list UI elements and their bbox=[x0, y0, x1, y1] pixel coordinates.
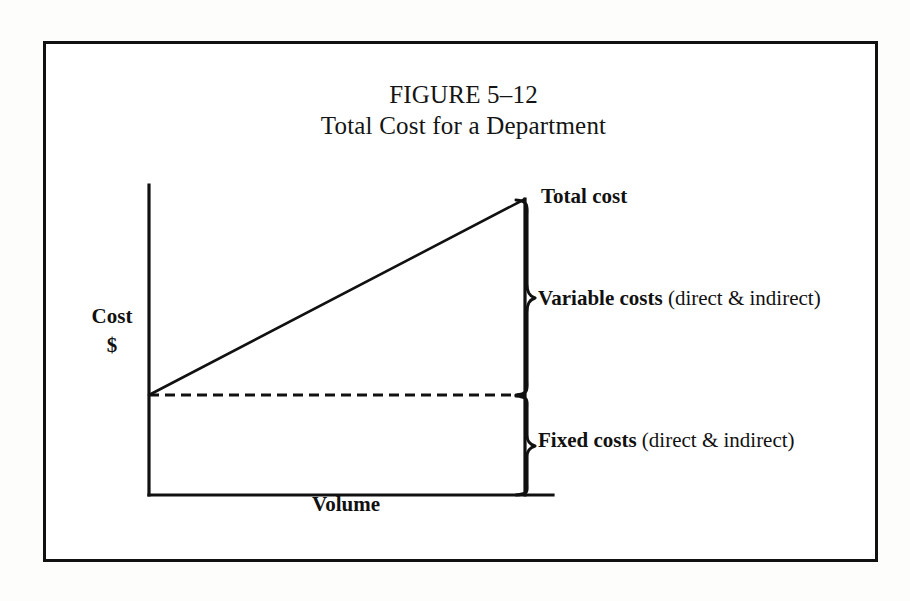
y-axis-label: Cost $ bbox=[76, 302, 148, 360]
fixed-costs-term: Fixed costs bbox=[538, 428, 637, 452]
variable-costs-term: Variable costs bbox=[538, 286, 663, 310]
fixed-costs-annotation: Fixed costs (direct & indirect) bbox=[538, 428, 795, 453]
fixed-costs-qualifier: (direct & indirect) bbox=[642, 428, 795, 452]
variable-costs-qualifier: (direct & indirect) bbox=[668, 286, 821, 310]
variable-costs-annotation: Variable costs (direct & indirect) bbox=[538, 286, 821, 311]
y-axis-unit: $ bbox=[76, 331, 148, 360]
y-axis-label-text: Cost bbox=[92, 304, 133, 328]
x-axis-label: Volume bbox=[231, 492, 461, 517]
figure-frame: FIGURE 5–12 Total Cost for a Department … bbox=[43, 41, 878, 562]
total-cost-line bbox=[149, 199, 525, 395]
total-cost-annotation: Total cost bbox=[541, 184, 627, 209]
